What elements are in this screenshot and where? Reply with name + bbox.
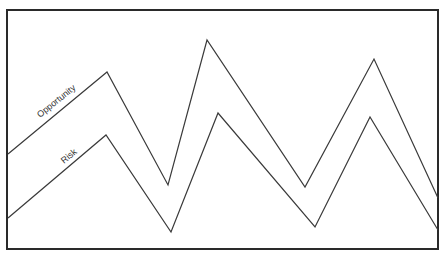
opportunity-risk-diagram: Opportunity Risk [0, 0, 444, 257]
risk-line [8, 113, 438, 232]
diagram-frame [7, 10, 438, 249]
risk-label: Risk [59, 146, 79, 165]
